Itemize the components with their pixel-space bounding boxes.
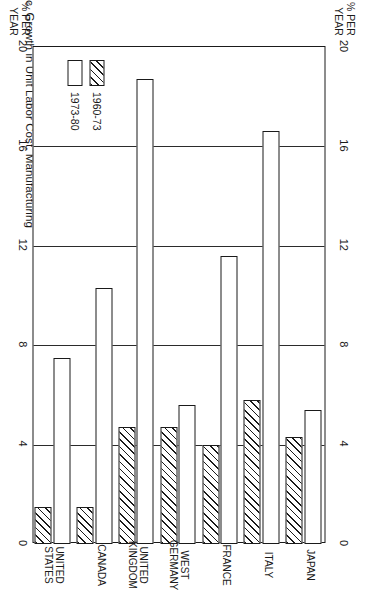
bar-united-kingdom-1960-73 bbox=[118, 427, 135, 544]
gridline bbox=[33, 146, 324, 147]
category-label: WEST GERMANY bbox=[168, 540, 190, 590]
bar-united-states-1960-73 bbox=[34, 507, 51, 544]
axis-bottom-title-line1: % PER bbox=[19, 2, 31, 36]
bar-united-states-1973-80 bbox=[53, 358, 70, 544]
axis-tick-label: 4 bbox=[337, 441, 349, 447]
axis-tick-label: 12 bbox=[337, 239, 349, 251]
category-label: FRANCE bbox=[220, 544, 231, 585]
legend-swatch-open bbox=[67, 60, 82, 86]
axis-tick-label: 20 bbox=[16, 40, 28, 52]
bar-canada-1973-80 bbox=[95, 288, 112, 544]
axis-bottom-title: % PER YEAR bbox=[7, 2, 30, 36]
bar-france-1960-73 bbox=[202, 445, 219, 544]
legend-swatch-hatched bbox=[89, 60, 104, 86]
bar-west-germany-1973-80 bbox=[178, 405, 195, 544]
axis-tick-label: 0 bbox=[16, 540, 28, 546]
bar-france-1973-80 bbox=[220, 256, 237, 544]
axis-tick-label: 16 bbox=[16, 139, 28, 151]
axis-top-title-line1: % PER bbox=[344, 2, 356, 36]
gridline bbox=[33, 345, 324, 346]
category-label: UNITED STATES bbox=[42, 546, 64, 583]
bar-united-kingdom-1973-80 bbox=[136, 79, 153, 544]
axis-tick-label: 8 bbox=[337, 341, 349, 347]
category-label: ITALY bbox=[262, 552, 273, 578]
bar-japan-1973-80 bbox=[304, 410, 321, 544]
axis-tick-label: 4 bbox=[16, 441, 28, 447]
bar-japan-1960-73 bbox=[285, 437, 302, 544]
bar-west-germany-1960-73 bbox=[160, 427, 177, 544]
legend-item-1973-80: 1973-80 bbox=[67, 60, 82, 131]
axis-top: % PER YEAR 048121620 bbox=[329, 46, 355, 543]
category-label: UNITED KINGDOM bbox=[126, 541, 148, 589]
bar-italy-1960-73 bbox=[243, 400, 260, 544]
axis-tick-label: 0 bbox=[337, 540, 349, 546]
category-label: CANADA bbox=[95, 544, 106, 586]
axis-tick-label: 16 bbox=[337, 139, 349, 151]
axis-top-title-line2: YEAR bbox=[332, 2, 344, 36]
legend-label: 1960-73 bbox=[91, 92, 103, 131]
legend-item-1960-73: 1960-73 bbox=[89, 60, 104, 131]
axis-tick-label: 12 bbox=[16, 239, 28, 251]
legend-label: 1973-80 bbox=[69, 92, 81, 131]
axis-bottom-title-line2: YEAR bbox=[7, 2, 19, 36]
axis-tick-label: 8 bbox=[16, 341, 28, 347]
axis-top-title: % PER YEAR bbox=[332, 2, 355, 36]
bar-italy-1973-80 bbox=[262, 131, 279, 544]
axis-bottom: % PER YEAR 048121620 bbox=[4, 46, 30, 543]
bar-canada-1960-73 bbox=[76, 507, 93, 544]
axis-tick-label: 20 bbox=[337, 40, 349, 52]
gridline bbox=[33, 246, 324, 247]
category-label: JAPAN bbox=[304, 549, 315, 581]
